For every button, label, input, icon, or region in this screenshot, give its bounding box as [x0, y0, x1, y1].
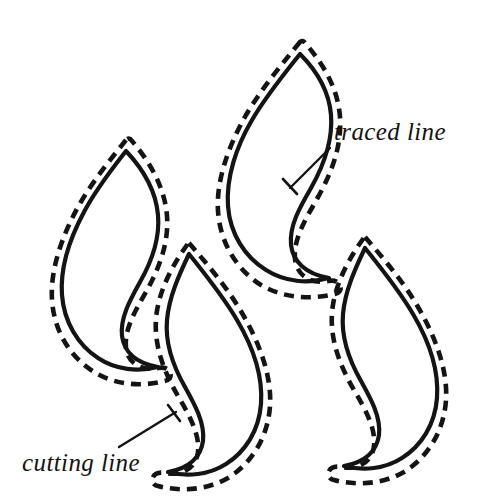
- cutting-line-leader: [119, 412, 176, 447]
- cutting-line-label: cutting line: [22, 449, 140, 476]
- pattern-piece-upper-left: [52, 139, 171, 385]
- traced-line-stroke-upper-left: [62, 151, 159, 370]
- annotation-cutting-line: cutting line: [22, 405, 180, 476]
- pattern-piece-lower-right: [328, 236, 446, 483]
- traced-line-stroke-lower-right: [343, 248, 438, 469]
- annotation-traced-line: traced line: [283, 118, 446, 194]
- pattern-piece-upper-center: [218, 41, 341, 297]
- traced-line-stroke-lower-center: [167, 254, 262, 475]
- diagram-canvas: traced line cutting line: [0, 0, 493, 499]
- traced-line-pointer-tick: [283, 179, 297, 194]
- cutting-line-stroke-upper-left: [52, 139, 171, 385]
- traced-line-label: traced line: [334, 118, 446, 145]
- cutting-line-pointer-tick: [168, 405, 180, 421]
- pattern-piece-lower-center: [152, 242, 270, 489]
- traced-line-stroke-upper-center: [228, 54, 332, 281]
- pattern-tracing-figure: traced line cutting line: [0, 0, 493, 499]
